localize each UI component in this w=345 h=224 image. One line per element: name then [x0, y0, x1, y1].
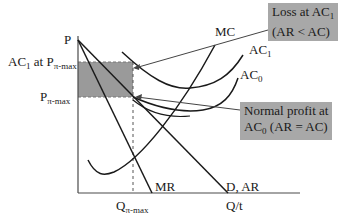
q-max-main: Q: [116, 198, 125, 213]
q-max-label: Qπ-max: [116, 199, 148, 217]
pmax-label: Pπ-max: [40, 90, 70, 108]
ac1-curve: [122, 52, 243, 88]
loss-callout-box: Loss at AC1 (AR < AC): [268, 3, 338, 41]
normal-callout-pointer: [137, 97, 240, 110]
ac1-price-mid: at P: [31, 54, 54, 69]
pmax-sub: π-max: [47, 96, 70, 106]
normal-callout-line2: AC0 (AR = AC): [244, 119, 328, 139]
demand-label: D, AR: [226, 180, 259, 194]
y-axis-label: P: [64, 33, 71, 47]
ac1-price-main: AC: [8, 54, 26, 69]
ac1-price-sub2: π-max: [54, 61, 77, 71]
ac0-main: AC: [240, 67, 258, 82]
mc-label: MC: [215, 25, 235, 39]
loss-callout-line1: Loss at AC1: [272, 4, 334, 24]
q-max-sub: π-max: [125, 205, 148, 215]
loss-callout-line2: (AR < AC): [272, 24, 334, 40]
ac1-sub: 1: [267, 49, 272, 59]
x-axis-label: Q/t: [226, 199, 243, 213]
ac1-label: AC1: [249, 43, 272, 61]
normal-callout-line1: Normal profit at: [244, 103, 328, 119]
mr-label: MR: [155, 180, 175, 194]
ac1-main: AC: [249, 42, 267, 57]
ac1-price-label: AC1 at Pπ-max: [8, 55, 77, 73]
normal-callout-box: Normal profit at AC0 (AR = AC): [240, 102, 332, 140]
ac0-label: AC0: [240, 68, 263, 86]
ac0-sub: 0: [258, 74, 263, 84]
